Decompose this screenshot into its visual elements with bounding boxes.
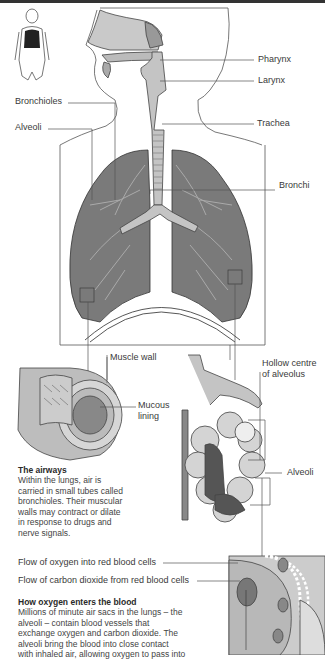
- airways-line: in response to drugs and: [18, 517, 143, 528]
- oxygen-caption-body: Millions of minute air sacs in the lungs…: [18, 607, 223, 660]
- oxygen-line: with inhaled air, allowing oxygen to pas…: [18, 649, 223, 660]
- label-hollow-centre-line1: Hollow centre: [262, 358, 317, 368]
- label-muscle-wall: Muscle wall: [110, 352, 157, 362]
- label-alveoli-lung: Alveoli: [15, 122, 42, 132]
- label-trachea: Trachea: [257, 118, 290, 128]
- left-lung: [70, 150, 150, 322]
- airway-tube: [18, 368, 122, 460]
- airways-line: carried in small tubes called: [18, 486, 143, 497]
- oxygen-caption-title: How oxygen enters the blood: [18, 597, 137, 607]
- oxygen-line: alveoli – contain blood vessels that: [18, 618, 223, 629]
- airways-line: bronchioles. Their muscular: [18, 496, 143, 507]
- oxygen-line: alveoli bring the blood into close conta…: [18, 639, 223, 650]
- label-flow-co2: Flow of carbon dioxide from red blood ce…: [18, 575, 189, 585]
- airways-line: nerve signals.: [18, 528, 143, 539]
- oxygen-line: exchange oxygen and carbon dioxide. The: [18, 628, 223, 639]
- label-hollow-centre-line2: of alveolus: [262, 369, 305, 379]
- label-flow-oxygen: Flow of oxygen into red blood cells: [18, 557, 156, 567]
- airways-caption-body: Within the lungs, air is carried in smal…: [18, 475, 143, 538]
- label-bronchioles: Bronchioles: [15, 96, 62, 106]
- body-figure-icon: [15, 9, 49, 80]
- label-alveoli-cluster: Alveoli: [287, 467, 314, 477]
- label-larynx: Larynx: [258, 75, 285, 85]
- airways-line: walls may contract or dilate: [18, 507, 143, 518]
- right-lung: [172, 150, 252, 322]
- alveoli-cluster: [182, 355, 265, 522]
- gas-exchange-detail: [229, 556, 325, 655]
- label-mucous-lining-line2: lining: [138, 411, 159, 421]
- label-bronchi: Bronchi: [279, 180, 310, 190]
- label-pharynx: Pharynx: [258, 54, 291, 64]
- airways-caption-title: The airways: [18, 465, 67, 475]
- label-mucous-lining-line1: Mucous: [138, 400, 170, 410]
- airways-line: Within the lungs, air is: [18, 475, 143, 486]
- oxygen-line: Millions of minute air sacs in the lungs…: [18, 607, 223, 618]
